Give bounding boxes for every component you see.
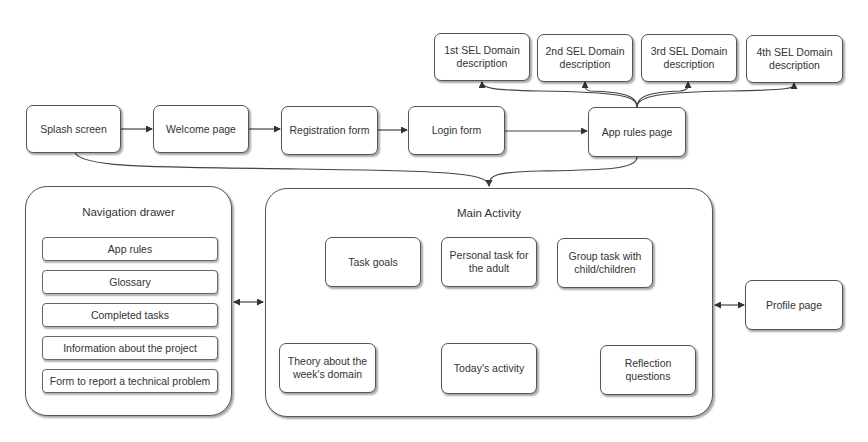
sel-domain-2-line1: 2nd SEL Domain (546, 45, 625, 58)
profile-page-node: Profile page (745, 280, 843, 330)
reflection-questions-node: Reflection questions (600, 345, 696, 395)
personal-task-node: Personal task for the adult (441, 237, 537, 287)
theory-line1: Theory about the (288, 355, 367, 368)
welcome-page-label: Welcome page (166, 123, 236, 136)
sel-domain-3-line2: description (664, 58, 715, 71)
sel-domain-3-line1: 3rd SEL Domain (651, 45, 728, 58)
splash-screen-label: Splash screen (40, 123, 107, 136)
group-task-line1: Group task with (569, 250, 642, 263)
sel-domain-1-node: 1st SEL Domain description (434, 33, 530, 81)
todays-activity-label: Today's activity (454, 362, 524, 375)
sel-domain-1-line1: 1st SEL Domain (444, 44, 519, 57)
theory-node: Theory about the week's domain (279, 343, 376, 393)
sel-domain-2-line2: description (560, 58, 611, 71)
navigation-drawer-container: Navigation drawer App rules Glossary Com… (25, 186, 232, 416)
sel-domain-3-node: 3rd SEL Domain description (641, 34, 737, 82)
task-goals-node: Task goals (325, 237, 421, 287)
sel-domain-4-line2: description (769, 59, 820, 72)
personal-task-line2: the adult (469, 262, 509, 275)
reflection-line2: questions (626, 370, 671, 383)
sel-domain-2-node: 2nd SEL Domain description (537, 34, 633, 82)
reflection-line1: Reflection (625, 357, 672, 370)
main-activity-title: Main Activity (266, 207, 712, 219)
login-form-label: Login form (432, 124, 482, 137)
registration-form-label: Registration form (290, 124, 370, 137)
splash-screen-node: Splash screen (26, 105, 121, 153)
nav-item-completed-tasks: Completed tasks (42, 303, 218, 327)
nav-item-project-info: Information about the project (42, 336, 218, 360)
welcome-page-node: Welcome page (153, 105, 249, 153)
group-task-node: Group task with child/children (557, 238, 653, 288)
registration-form-node: Registration form (281, 106, 378, 155)
nav-item-report-problem: Form to report a technical problem (42, 369, 218, 393)
profile-page-label: Profile page (766, 299, 822, 312)
navigation-drawer-title: Navigation drawer (26, 206, 231, 218)
sel-domain-4-node: 4th SEL Domain description (746, 35, 843, 83)
theory-line2: week's domain (293, 368, 362, 381)
task-goals-label: Task goals (348, 256, 398, 269)
todays-activity-node: Today's activity (441, 343, 537, 394)
nav-item-app-rules: App rules (42, 237, 218, 261)
sel-domain-4-line1: 4th SEL Domain (756, 46, 832, 59)
login-form-node: Login form (408, 106, 505, 155)
app-rules-page-node: App rules page (588, 107, 686, 157)
personal-task-line1: Personal task for (450, 249, 529, 262)
nav-item-glossary: Glossary (42, 270, 218, 294)
sel-domain-1-line2: description (457, 57, 508, 70)
app-rules-page-label: App rules page (602, 126, 673, 139)
group-task-line2: child/children (574, 263, 635, 276)
